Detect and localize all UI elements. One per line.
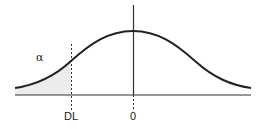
normal-distribution-diagram: α DL 0: [0, 0, 265, 129]
dl-tick-label: DL: [64, 111, 78, 122]
alpha-label: α: [36, 52, 43, 63]
zero-tick-label: 0: [130, 111, 136, 122]
alpha-shaded-area: [15, 61, 71, 95]
